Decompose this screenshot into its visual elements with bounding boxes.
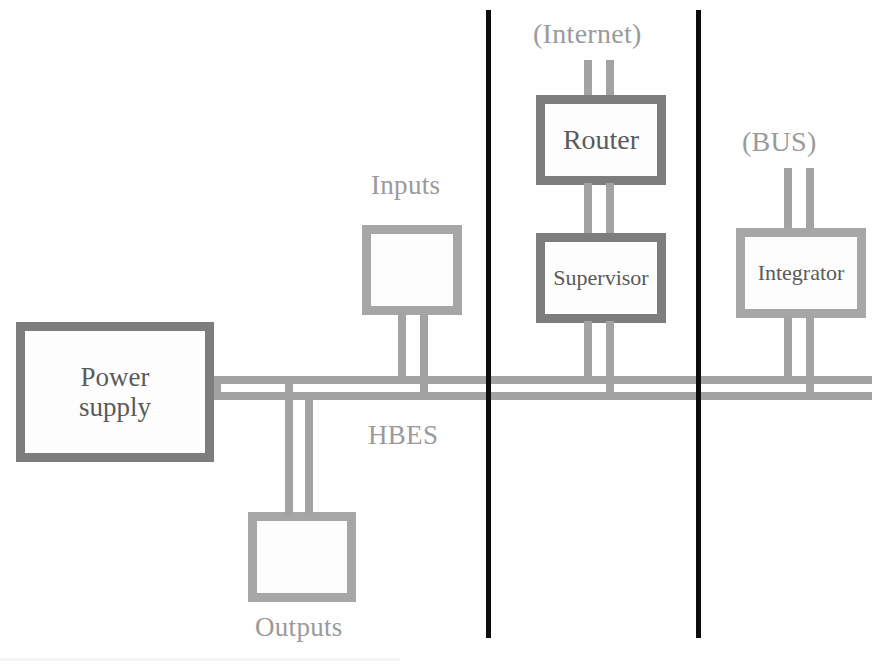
uplink-internet-right-rail — [606, 60, 614, 98]
bus-drop-outputs-right-rail — [305, 392, 313, 516]
uplink-bus-left-rail — [784, 168, 792, 236]
hbes-bus-diagram: Power supply Inputs Outputs (Internet) R… — [0, 0, 872, 666]
bus-drop-supervisor-left-rail — [584, 321, 592, 384]
node-integrator-label: Integrator — [758, 261, 845, 286]
caption-bus: (BUS) — [742, 126, 817, 158]
zone-divider-right — [696, 10, 701, 638]
scan-artifact — [0, 658, 400, 661]
uplink-bus-right-rail — [806, 168, 814, 236]
bus-drop-integrator-right-rail — [806, 316, 814, 400]
zone-divider-left — [486, 10, 491, 638]
caption-inputs: Inputs — [371, 170, 440, 201]
bus-drop-integrator-left-rail — [784, 316, 792, 384]
node-router-label: Router — [563, 124, 639, 155]
bus-drop-outputs-left-rail — [285, 376, 293, 516]
node-inputs[interactable] — [362, 225, 462, 315]
bus-drop-inputs-left-rail — [398, 312, 406, 384]
link-router-supervisor-right-rail — [606, 183, 614, 235]
link-router-supervisor-left-rail — [584, 183, 592, 235]
caption-hbes-bus: HBES — [368, 420, 438, 451]
bus-drop-supervisor-right-rail — [606, 321, 614, 400]
bus-trunk-left-cap — [213, 376, 221, 400]
node-outputs[interactable] — [248, 512, 356, 602]
node-router[interactable]: Router — [536, 95, 666, 185]
node-power-supply-label: Power supply — [79, 362, 151, 422]
caption-outputs: Outputs — [255, 612, 343, 643]
bus-drop-inputs-right-rail — [420, 312, 428, 400]
uplink-internet-left-rail — [584, 60, 592, 98]
caption-internet: (Internet) — [533, 18, 642, 50]
node-power-supply[interactable]: Power supply — [16, 322, 214, 462]
node-integrator[interactable]: Integrator — [736, 228, 866, 318]
node-supervisor-label: Supervisor — [553, 266, 648, 291]
bus-trunk-upper-rail — [213, 376, 872, 384]
node-supervisor[interactable]: Supervisor — [536, 233, 666, 323]
